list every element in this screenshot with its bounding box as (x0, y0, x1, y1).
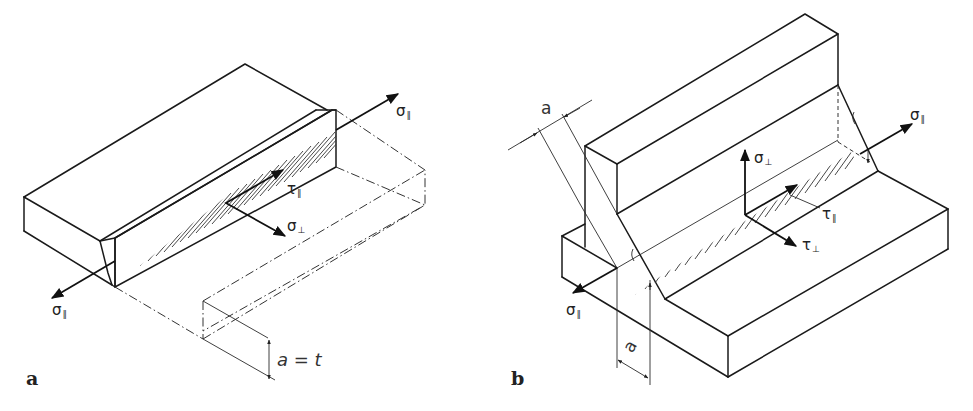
label-sigma-parallel-back-b: σ∥ (910, 108, 925, 124)
panel-label-a: a (26, 369, 38, 388)
label-sigma-perp-b: σ⊥ (754, 151, 772, 167)
dimension-a-equals-t: a = t (277, 351, 322, 369)
label-sigma-perp-a: σ⊥ (287, 219, 305, 235)
label-sigma-parallel-back-a: σ∥ (396, 104, 411, 120)
figure: σ∥ σ∥ τ∥ σ⊥ a = t a σ∥ σ∥ σ⊥ τ∥ τ⊥ a a b (0, 0, 973, 411)
panel-label-b: b (511, 369, 524, 388)
label-tau-perp-b: τ⊥ (802, 238, 820, 254)
label-tau-parallel-a: τ∥ (287, 182, 302, 198)
label-sigma-parallel-front-b: σ∥ (566, 303, 581, 319)
dimension-throat-a-top: a (541, 100, 551, 117)
label-tau-parallel-b: τ∥ (822, 207, 837, 223)
label-sigma-parallel-front-a: σ∥ (52, 303, 67, 319)
